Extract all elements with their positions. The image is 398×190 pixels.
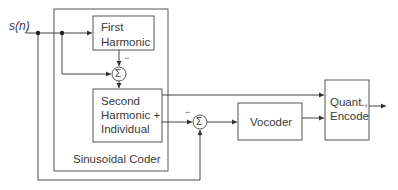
input-signal-label: s(n) xyxy=(9,19,30,33)
second-harmonic-line-1: Second xyxy=(101,94,160,108)
quant-line-2: Encode xyxy=(330,109,369,123)
vocoder-label: Vocoder xyxy=(250,115,292,129)
summer-1-symbol: Σ xyxy=(115,67,121,81)
summer-2-minus-sign: − xyxy=(185,108,190,117)
first-harmonic-line-1: First xyxy=(101,20,150,34)
second-harmonic-label: Second Harmonic + Individual xyxy=(101,94,160,136)
first-harmonic-line-2: Harmonic xyxy=(101,35,150,49)
sinusoidal-coder-label: Sinusoidal Coder xyxy=(73,152,161,166)
junction-dot-1 xyxy=(36,31,40,35)
summer-2-symbol: Σ xyxy=(196,115,202,129)
second-harmonic-line-2: Harmonic + xyxy=(101,108,160,122)
first-harmonic-label: First Harmonic xyxy=(101,20,150,49)
quant-encode-label: Quant., Encode xyxy=(330,95,369,123)
summer-1-minus-sign: − xyxy=(124,54,129,63)
second-harmonic-line-3: Individual xyxy=(101,122,160,136)
junction-dot-2 xyxy=(60,31,64,35)
quant-line-1: Quant., xyxy=(330,95,369,109)
